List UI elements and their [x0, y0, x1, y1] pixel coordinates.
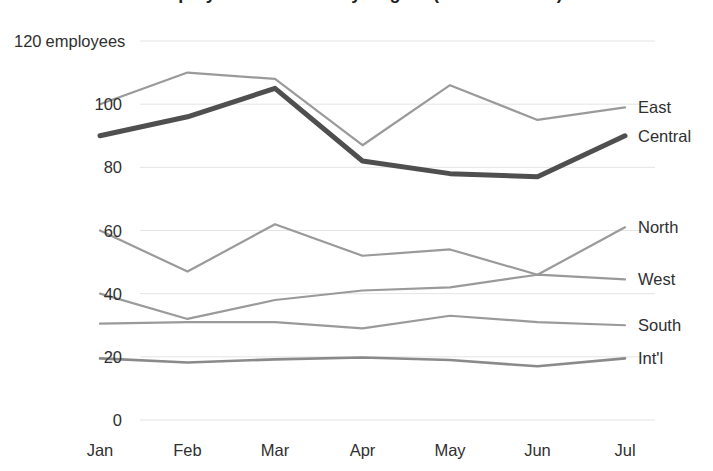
x-tick-label-feb: Feb — [143, 442, 233, 459]
series-label-west[interactable]: West — [638, 271, 675, 288]
y-tick-label-20: 20 — [0, 349, 122, 366]
series-label-north[interactable]: North — [638, 219, 678, 236]
x-tick-label-mar: Mar — [230, 442, 320, 459]
y-tick-label-40: 40 — [0, 286, 122, 303]
series-line-central[interactable] — [100, 88, 625, 176]
y-tick-label-80: 80 — [0, 159, 122, 176]
y-tick-label-100: 100 — [0, 96, 122, 113]
y-tick-label-60: 60 — [0, 223, 122, 240]
x-tick-label-jan: Jan — [55, 442, 145, 459]
y-top-tick-number: 120 — [14, 32, 42, 50]
y-tick-label-0: 0 — [0, 412, 122, 429]
x-tick-label-may: May — [405, 442, 495, 459]
series-lines — [100, 73, 625, 367]
series-line-north[interactable] — [100, 224, 625, 275]
x-tick-label-apr: Apr — [318, 442, 408, 459]
x-tick-label-jun: Jun — [493, 442, 583, 459]
series-line-east[interactable] — [100, 73, 625, 146]
chart-root: Employee Headcount by Region (2024 first… — [0, 0, 713, 471]
series-label-east[interactable]: East — [638, 99, 671, 116]
x-tick-label-jul: Jul — [580, 442, 670, 459]
series-line-intl[interactable] — [100, 357, 625, 366]
series-label-intl[interactable]: Int'l — [638, 350, 663, 367]
series-label-south[interactable]: South — [638, 317, 681, 334]
series-line-south[interactable] — [100, 316, 625, 329]
y-axis-unit-label: employees — [42, 32, 126, 50]
series-label-central[interactable]: Central — [638, 128, 691, 145]
series-line-west[interactable] — [100, 275, 625, 319]
y-tick-label-120: 120employees — [14, 33, 125, 50]
